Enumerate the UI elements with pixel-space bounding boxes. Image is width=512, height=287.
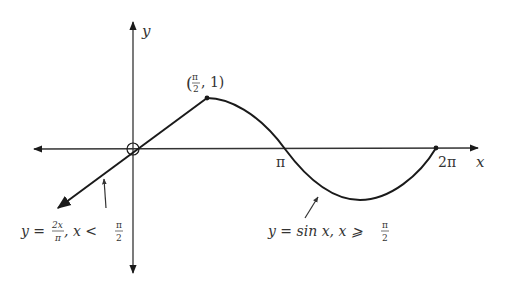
svg-text:y = sin x, x ⩾: y = sin x, x ⩾ xyxy=(267,223,363,239)
svg-text:2: 2 xyxy=(116,233,122,243)
peak-label: ( π 2 , 1) xyxy=(186,72,224,94)
svg-text:π: π xyxy=(192,72,198,82)
svg-text:π: π xyxy=(54,233,62,243)
svg-text:, x <: , x < xyxy=(64,223,97,239)
x-axis-label: x xyxy=(476,153,485,171)
two-pi-point xyxy=(434,146,439,151)
piecewise-graph: y x π 2π ( π 2 , 1) y = 2x π , x < π 2 y… xyxy=(0,0,512,287)
left-annotation: y = 2x π , x < π 2 xyxy=(20,220,123,243)
tick-2pi: 2π xyxy=(438,154,456,170)
svg-text:π: π xyxy=(116,220,122,230)
svg-text:2x: 2x xyxy=(51,220,63,230)
right-annotation: y = sin x, x ⩾ π 2 xyxy=(267,220,389,243)
y-axis-label: y xyxy=(141,22,151,40)
peak-point xyxy=(205,96,210,101)
svg-text:2: 2 xyxy=(382,233,388,243)
svg-text:2: 2 xyxy=(193,84,199,94)
svg-text:, 1): , 1) xyxy=(201,74,224,90)
svg-text:π: π xyxy=(382,220,388,230)
x-axis xyxy=(34,148,478,149)
svg-text:y =: y = xyxy=(20,223,45,239)
tick-pi: π xyxy=(276,154,285,170)
right-annotation-arrow xyxy=(305,197,318,218)
left-annotation-arrow xyxy=(104,179,106,208)
